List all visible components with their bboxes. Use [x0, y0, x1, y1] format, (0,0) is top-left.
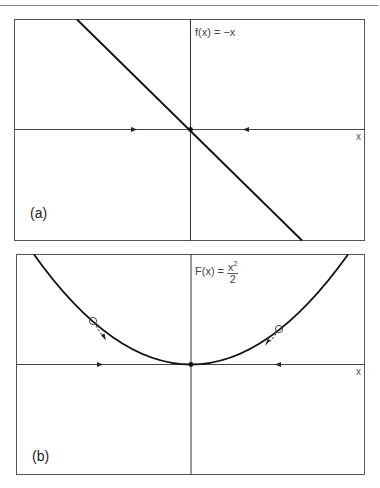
- panel-a-fixed-point: [188, 127, 193, 132]
- panel-b-tag: (b): [32, 448, 49, 464]
- numerator-exponent: 2: [234, 260, 238, 267]
- panel-a-flow-arrow-left-icon: [243, 127, 249, 132]
- panel-b-left-motion-arrow-icon: [101, 334, 106, 341]
- panel-b-equation: F(x) = x2 2: [195, 258, 238, 285]
- panel-b-flow-arrow-right-icon: [97, 362, 103, 367]
- panel-b-flow-arrow-left-icon: [275, 362, 281, 367]
- panel-b-x-axis-label: x: [356, 366, 361, 377]
- panel-b-equation-fraction: x2 2: [227, 258, 238, 285]
- panel-b-equation-denominator: 2: [230, 274, 236, 285]
- panel-b-equation-numerator: x2: [227, 258, 238, 274]
- panel-b: [17, 255, 365, 475]
- panel-a-equation: f(x) = −x: [195, 26, 235, 38]
- panel-a: [15, 20, 365, 241]
- panel-b-equation-lhs: F(x) =: [195, 265, 224, 277]
- panel-a-x-axis-label: x: [356, 131, 361, 142]
- figure-canvas: [0, 0, 380, 488]
- panel-a-flow-arrow-right-icon: [131, 127, 137, 132]
- panel-a-tag: (a): [30, 205, 47, 221]
- panel-b-minimum-point: [189, 362, 194, 367]
